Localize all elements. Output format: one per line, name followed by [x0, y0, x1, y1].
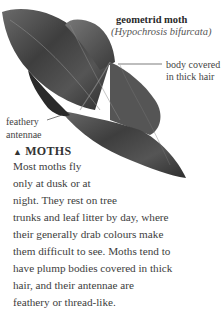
body-line: hair, and their antennae are — [13, 277, 213, 294]
body-line: only at dusk or at — [13, 175, 213, 192]
species-latin-name: (Hypochrosis bifurcata) — [111, 26, 211, 37]
species-title: geometrid moth — [116, 14, 187, 25]
body-line: their generally drab colours make — [13, 226, 213, 243]
body-line: night. They rest on tree — [13, 192, 213, 209]
triangle-up-icon: ▲ — [13, 147, 22, 157]
antennae-annotation-line1: feathery — [6, 115, 42, 128]
body-annotation-line2: in thick hair — [166, 71, 220, 83]
body-annotation: body covered in thick hair — [166, 59, 220, 83]
body-line: Most moths fly — [13, 158, 213, 175]
section-heading: ▲MOTHS — [13, 144, 71, 159]
antennae-annotation: feathery antennae — [6, 115, 42, 141]
body-line: feathery or thread-like. — [13, 294, 213, 311]
body-line: trunks and leaf litter by day, where — [13, 209, 213, 226]
antennae-annotation-line2: antennae — [6, 128, 42, 141]
section-body: Most moths fly only at dusk or at night.… — [13, 158, 213, 311]
body-line: them difficult to see. Moths tend to — [13, 243, 213, 260]
section-heading-text: MOTHS — [25, 144, 71, 158]
body-annotation-line1: body covered — [166, 59, 220, 71]
body-line: have plump bodies covered in thick — [13, 260, 213, 277]
